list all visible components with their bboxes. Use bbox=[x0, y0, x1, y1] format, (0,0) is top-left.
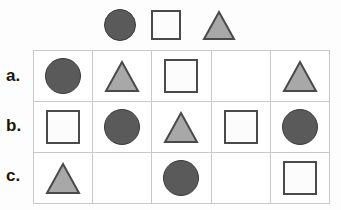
table-cell[interactable] bbox=[270, 102, 329, 153]
cell-content bbox=[34, 103, 92, 151]
square-icon bbox=[224, 110, 258, 144]
row-label-a: a. bbox=[6, 51, 32, 101]
table-body bbox=[34, 51, 330, 204]
row-label-text: a. bbox=[6, 66, 20, 86]
cell-content bbox=[212, 103, 270, 151]
key-shape-slot bbox=[143, 6, 189, 44]
row-label-b: b. bbox=[6, 101, 32, 151]
circle-icon bbox=[104, 109, 140, 145]
triangle-icon bbox=[104, 60, 140, 93]
cell-content bbox=[93, 52, 151, 100]
triangle-icon bbox=[45, 162, 81, 195]
row-label-text: b. bbox=[6, 116, 21, 136]
cell-content bbox=[271, 52, 329, 100]
cell-content bbox=[93, 154, 151, 202]
square-icon bbox=[46, 110, 80, 144]
row-label-text: c. bbox=[6, 166, 20, 186]
triangle-icon bbox=[202, 10, 236, 41]
cell-content bbox=[34, 52, 92, 100]
key-shape-slot bbox=[196, 6, 242, 44]
table-cell[interactable] bbox=[93, 51, 152, 102]
row-label-c: c. bbox=[6, 151, 32, 201]
table-cell[interactable] bbox=[152, 102, 211, 153]
empty-cell-placeholder bbox=[122, 160, 123, 196]
cell-content bbox=[152, 52, 210, 100]
cell-content bbox=[271, 103, 329, 151]
table-row bbox=[34, 102, 330, 153]
table-cell[interactable] bbox=[211, 102, 270, 153]
triangle-icon bbox=[282, 60, 318, 93]
table-cell[interactable] bbox=[152, 153, 211, 204]
table-cell[interactable] bbox=[34, 51, 93, 102]
table-cell[interactable] bbox=[211, 51, 270, 102]
cell-content bbox=[271, 154, 329, 202]
table-row bbox=[34, 153, 330, 204]
empty-cell-placeholder bbox=[240, 160, 241, 196]
square-icon bbox=[283, 161, 317, 195]
table-cell[interactable] bbox=[270, 51, 329, 102]
square-icon bbox=[164, 59, 198, 93]
triangle-glyph bbox=[104, 60, 140, 93]
circle-icon bbox=[163, 160, 199, 196]
triangle-glyph bbox=[163, 111, 199, 144]
table-cell[interactable] bbox=[152, 51, 211, 102]
triangle-glyph bbox=[282, 60, 318, 93]
empty-cell-placeholder bbox=[240, 58, 241, 94]
triangle-icon bbox=[163, 111, 199, 144]
table-cell[interactable] bbox=[270, 153, 329, 204]
square-icon bbox=[151, 10, 181, 40]
cell-content bbox=[212, 52, 270, 100]
shape-grid-table bbox=[33, 50, 330, 204]
cell-content bbox=[152, 154, 210, 202]
table-cell[interactable] bbox=[93, 153, 152, 204]
cell-content bbox=[152, 103, 210, 151]
circle-icon bbox=[45, 58, 81, 94]
table-cell[interactable] bbox=[211, 153, 270, 204]
cell-content bbox=[93, 103, 151, 151]
table-cell[interactable] bbox=[34, 102, 93, 153]
triangle-glyph bbox=[45, 162, 81, 195]
table-row bbox=[34, 51, 330, 102]
cell-content bbox=[34, 154, 92, 202]
key-shape-slot bbox=[97, 6, 143, 44]
table-cell[interactable] bbox=[34, 153, 93, 204]
shape-key-row bbox=[0, 0, 341, 50]
cell-content bbox=[212, 154, 270, 202]
circle-icon bbox=[282, 109, 318, 145]
circle-icon bbox=[104, 9, 136, 41]
table-cell[interactable] bbox=[93, 102, 152, 153]
triangle-glyph bbox=[202, 10, 236, 41]
